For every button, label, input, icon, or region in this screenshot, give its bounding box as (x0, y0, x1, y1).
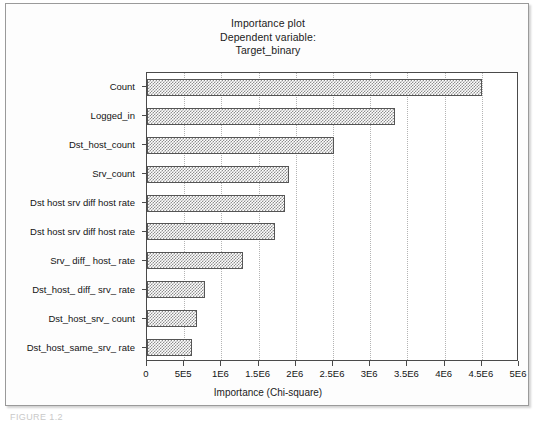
x-axis-tick-label: 2E6 (286, 368, 303, 379)
bar[interactable] (147, 79, 482, 96)
bar-row (147, 223, 517, 240)
x-axis-tick (369, 361, 370, 366)
bar-row (147, 195, 517, 212)
chart-subtitle: Dependent variable: (6, 31, 530, 45)
y-axis-tick-label: Dst host srv diff host rate (30, 225, 135, 236)
x-axis-tick-label: 0 (143, 368, 148, 379)
x-axis-tick-label: 4E6 (435, 368, 452, 379)
bar[interactable] (147, 223, 275, 240)
x-axis-tick (183, 361, 184, 366)
y-axis-label-group: CountLogged_inDst_host_countSrv_countDst… (6, 72, 141, 361)
y-axis-tick-label: Dst_host_same_srv_ rate (27, 341, 135, 352)
bar[interactable] (147, 195, 285, 212)
x-axis-tick (220, 361, 221, 366)
x-axis-tick-label-group: 05E51E61.5E62E62.5E63E63.5E64E64.5E65E6 (146, 368, 518, 382)
y-axis-tick-label: Dst_host_srv_ count (48, 312, 135, 323)
figure-frame: Importance plot Dependent variable: Targ… (5, 3, 529, 406)
bar-row (147, 281, 517, 298)
y-axis-tick-label: Srv_count (92, 168, 135, 179)
bar-row (147, 339, 517, 356)
x-axis-tick-group (146, 361, 518, 367)
bar-row (147, 166, 517, 183)
chart-dependent-variable: Target_binary (6, 44, 530, 58)
chart-title: Importance plot (6, 17, 530, 31)
bar-row (147, 310, 517, 327)
x-axis-tick (518, 361, 519, 366)
bar-row (147, 108, 517, 125)
bar-row (147, 79, 517, 96)
figure-caption: FIGURE 1.2 (10, 412, 63, 423)
x-axis-title: Importance (Chi-square) (6, 387, 530, 398)
bar[interactable] (147, 281, 205, 298)
x-axis-tick (258, 361, 259, 366)
y-axis-tick-label: Dst host srv diff host rate (30, 197, 135, 208)
x-axis-tick (406, 361, 407, 366)
y-axis-tick-label: Dst_host_count (69, 139, 135, 150)
bar-row (147, 137, 517, 154)
bars-layer (147, 73, 517, 360)
bar[interactable] (147, 108, 395, 125)
plot-area (146, 72, 518, 361)
y-axis-tick-label: Count (110, 81, 135, 92)
bar-row (147, 252, 517, 269)
y-axis-tick-label: Dst_host_ diff_ srv_ rate (32, 283, 135, 294)
chart-title-block: Importance plot Dependent variable: Targ… (6, 17, 530, 58)
bar[interactable] (147, 166, 289, 183)
y-axis-tick-label: Logged_in (91, 110, 135, 121)
bar[interactable] (147, 252, 243, 269)
x-axis-tick-label: 5E5 (175, 368, 192, 379)
x-axis-tick-label: 4.5E6 (468, 368, 493, 379)
x-axis-tick-label: 3.5E6 (394, 368, 419, 379)
x-axis-tick (444, 361, 445, 366)
bar[interactable] (147, 339, 192, 356)
x-axis-tick (481, 361, 482, 366)
bar[interactable] (147, 310, 197, 327)
x-axis-tick-label: 1E6 (212, 368, 229, 379)
x-axis-tick-label: 1.5E6 (245, 368, 270, 379)
x-axis-tick-label: 5E6 (510, 368, 527, 379)
x-axis-tick (295, 361, 296, 366)
bar[interactable] (147, 137, 334, 154)
x-axis-tick (146, 361, 147, 366)
x-axis-tick-label: 2.5E6 (320, 368, 345, 379)
x-axis-tick-label: 3E6 (361, 368, 378, 379)
y-axis-tick-label: Srv_ diff_ host_ rate (50, 254, 135, 265)
x-axis-tick (332, 361, 333, 366)
